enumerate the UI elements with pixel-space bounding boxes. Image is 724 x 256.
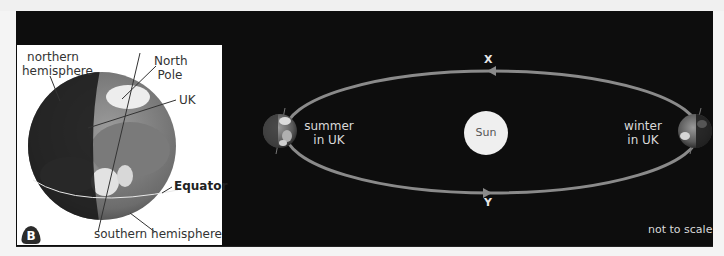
label-summer-uk: summer in UK xyxy=(304,119,354,147)
label-summer-line2: in UK xyxy=(304,133,354,147)
label-summer-line1: summer xyxy=(304,119,354,133)
panel-badge: B xyxy=(20,226,42,244)
marker-y: Y xyxy=(484,196,492,209)
label-north-pole-line2: Pole xyxy=(154,68,186,82)
label-winter-line2: in UK xyxy=(618,133,668,147)
label-north-pole-line1: North xyxy=(154,54,186,68)
badge-letter: B xyxy=(20,229,42,243)
label-sun: Sun xyxy=(464,126,508,139)
label-equator: Equator xyxy=(174,179,227,193)
marker-x: X xyxy=(484,53,492,66)
label-north-pole: North Pole xyxy=(154,54,186,82)
label-southern-hemisphere: southern hemisphere xyxy=(94,227,222,241)
label-northern-line2: hemisphere xyxy=(22,64,84,78)
panel-b-illustration xyxy=(0,0,724,256)
label-winter-uk: winter in UK xyxy=(618,119,668,147)
label-uk: UK xyxy=(179,93,196,107)
label-northern-hemisphere: northern hemisphere xyxy=(22,50,84,78)
label-winter-line1: winter xyxy=(618,119,668,133)
note-not-to-scale: not to scale xyxy=(648,223,712,237)
label-northern-line1: northern xyxy=(22,50,84,64)
